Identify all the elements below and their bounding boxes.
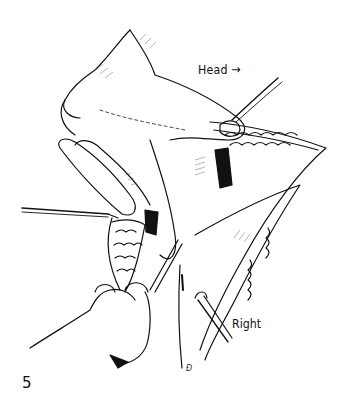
cavity-shadow — [145, 210, 158, 235]
tissue-left — [108, 218, 120, 290]
arrow-right-icon: → — [231, 62, 240, 77]
hand-palm-edge — [150, 140, 176, 259]
incision-inner-flap — [195, 185, 300, 360]
hand-lower — [30, 289, 135, 348]
label-right: Right — [232, 316, 261, 331]
figure-number: 5 — [22, 374, 32, 392]
surgical-illustration — [0, 0, 346, 399]
label-head-text: Head — [198, 62, 228, 77]
finger-index — [59, 139, 136, 215]
label-head: Head → — [198, 62, 241, 77]
forceps — [150, 240, 178, 290]
thumb-nail — [220, 121, 240, 136]
line-drawing — [0, 0, 346, 399]
probe-head — [232, 78, 278, 120]
artist-signature: Đ — [186, 364, 192, 373]
fingertip-1 — [95, 285, 115, 293]
